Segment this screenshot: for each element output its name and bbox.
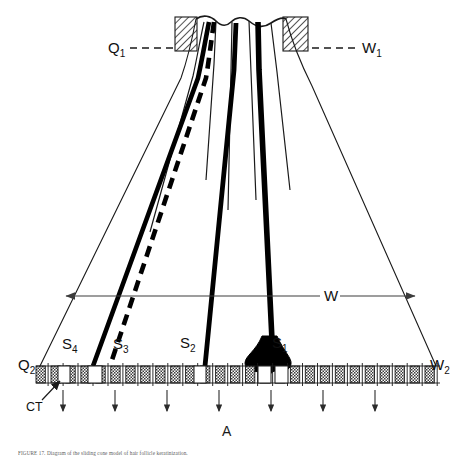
basal-cell <box>126 366 135 383</box>
keratin-line-s4 <box>93 22 209 366</box>
keratin-line-s2 <box>205 23 236 366</box>
basal-cell <box>350 366 359 383</box>
basal-cell <box>111 366 120 383</box>
label-q1: Q1 <box>108 39 126 59</box>
figure-caption: FIGURE 17. Diagram of the sliding cone m… <box>18 450 448 457</box>
basal-cell <box>36 366 45 383</box>
basal-cell <box>380 366 389 383</box>
keratin-line-s1 <box>245 22 291 374</box>
basal-cell <box>141 366 150 383</box>
basal-cell <box>156 366 165 383</box>
basal-cell <box>410 366 419 383</box>
label-s4: S4 <box>62 335 78 355</box>
follicle-outer-wall <box>40 19 436 366</box>
basal-cell <box>395 366 404 383</box>
basal-cell <box>320 366 329 383</box>
figure-panel-a: Q1 W1 W Q2 W2 CT S4 S3 S2 S1 A FIGURE 17… <box>0 0 457 460</box>
basal-cell <box>365 366 374 383</box>
basal-cell <box>231 366 240 383</box>
label-ct: CT <box>26 400 43 414</box>
leader-ct <box>42 381 60 400</box>
basal-cell <box>305 366 314 383</box>
follicle-diagram: Q1 W1 W Q2 W2 CT S4 S3 S2 S1 A <box>0 0 457 460</box>
label-w1: W1 <box>362 39 382 59</box>
label-w: W <box>324 287 339 304</box>
basal-cell <box>216 366 225 383</box>
basal-cell <box>171 366 180 383</box>
label-q2: Q2 <box>18 356 36 376</box>
label-s2: S2 <box>180 334 196 354</box>
basal-cell <box>290 366 299 383</box>
panel-label-a: A <box>222 423 232 439</box>
basal-cell <box>246 366 255 383</box>
basal-cell <box>335 366 344 383</box>
downward-flow-arrows <box>63 390 375 411</box>
